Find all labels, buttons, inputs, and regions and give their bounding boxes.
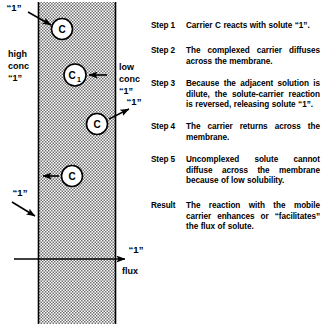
step5-blocked-arrow <box>12 202 35 216</box>
svg-text:“1”: “1” <box>8 73 22 83</box>
carrier-complex: C 1 <box>64 64 86 86</box>
step-row: Step 3 Because the adjacent solution is … <box>151 79 322 110</box>
solute-label-mid-right: “1” <box>127 96 142 107</box>
step-row: Step 4 The carrier returns across the me… <box>151 122 322 143</box>
flux-solute-label: “1” <box>129 244 144 255</box>
carrier-release: C <box>87 114 108 135</box>
step-text: Carrier C reacts with solute “1”. <box>186 21 322 31</box>
step-row: Result The reaction with the mobile carr… <box>151 201 322 232</box>
svg-text:C: C <box>58 24 65 35</box>
step-label: Step 5 <box>151 155 186 165</box>
high-conc-label: high conc “1” <box>8 49 29 83</box>
svg-text:low: low <box>119 62 135 72</box>
step-row: Step 5 Uncomplexed solute cannot diffuse… <box>151 155 322 186</box>
svg-text:C: C <box>68 70 75 81</box>
solute-label-top-left: “1” <box>7 2 22 13</box>
step-label: Result <box>151 201 186 211</box>
svg-text:C: C <box>68 171 75 182</box>
low-conc-label: low conc “1” <box>119 62 140 96</box>
step-text: Because the adjacent solution is dilute,… <box>186 79 322 110</box>
membrane-diagram: “1” C high conc “1” C 1 low <box>0 0 150 328</box>
step-label: Step 1 <box>151 21 186 31</box>
step-label: Step 4 <box>151 122 186 132</box>
svg-text:conc: conc <box>119 74 140 84</box>
carrier-return: C <box>62 166 83 187</box>
step-label: Step 2 <box>151 46 186 56</box>
step-row: Step 1 Carrier C reacts with solute “1”. <box>151 21 322 31</box>
svg-text:“1”: “1” <box>119 86 133 96</box>
step-text: The carrier returns across the membrane. <box>186 122 322 143</box>
carrier-top: C <box>52 19 73 40</box>
step-row: Step 2 The complexed carrier diffuses ac… <box>151 46 322 67</box>
step-text: The reaction with the mobile carrier enh… <box>186 201 322 232</box>
svg-text:C: C <box>93 119 100 130</box>
flux-label: flux <box>122 266 138 276</box>
svg-text:conc: conc <box>8 61 29 71</box>
step-text: The complexed carrier diffuses across th… <box>186 46 322 67</box>
svg-text:high: high <box>8 49 27 59</box>
steps-list: Step 1 Carrier C reacts with solute “1”.… <box>151 21 322 242</box>
step-label: Step 3 <box>151 79 186 89</box>
facilitated-transport-figure: “1” C high conc “1” C 1 low <box>0 0 322 328</box>
solute-label-lower-left: “1” <box>13 187 28 198</box>
membrane-slab <box>38 2 116 324</box>
svg-text:1: 1 <box>77 76 81 83</box>
step-text: Uncomplexed solute cannot diffuse across… <box>186 155 322 186</box>
